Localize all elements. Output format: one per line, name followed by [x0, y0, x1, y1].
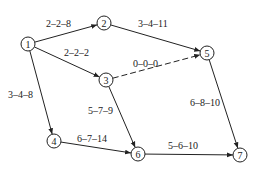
edge-1-4 [30, 51, 52, 134]
edge-label-1-3: 2–2–2 [64, 47, 89, 58]
edge-3-6 [109, 86, 135, 147]
node-4: 4 [47, 134, 61, 148]
node-label: 2 [102, 18, 107, 29]
node-6: 6 [131, 147, 145, 161]
edge-label-5-7: 6–8–10 [190, 97, 220, 108]
node-3: 3 [99, 73, 113, 87]
edge-6-7 [145, 154, 233, 155]
node-label: 3 [104, 75, 109, 86]
node-label: 6 [136, 149, 141, 160]
node-label: 1 [26, 39, 31, 50]
node-5: 5 [200, 46, 214, 60]
edge-label-3-5: 0–0–0 [133, 58, 158, 69]
network-diagram: 2–2–82–2–23–4–83–4–110–0–05–7–96–7–146–8… [0, 0, 253, 171]
node-7: 7 [233, 148, 247, 162]
edge-label-1-2: 2–2–8 [46, 18, 71, 29]
edge-label-3-6: 5–7–9 [88, 105, 113, 116]
edge-label-4-6: 6–7–14 [77, 133, 107, 144]
edge-label-1-4: 3–4–8 [8, 89, 33, 100]
node-label: 4 [52, 136, 57, 147]
node-2: 2 [97, 16, 111, 30]
node-label: 5 [205, 48, 210, 59]
node-label: 7 [238, 150, 243, 161]
edge-label-6-7: 5–6–10 [168, 140, 198, 151]
node-1: 1 [21, 37, 35, 51]
edge-label-2-5: 3–4–11 [138, 18, 168, 29]
